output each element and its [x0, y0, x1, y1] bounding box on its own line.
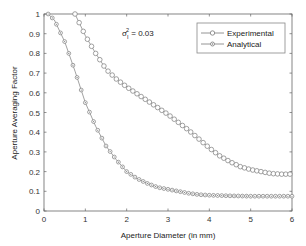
data-point-dot	[258, 196, 259, 197]
data-point-dot	[238, 195, 239, 196]
x-tick-label: 0	[42, 215, 47, 224]
chart: 0123456 00.10.20.30.40.50.60.70.80.91 Ap…	[0, 0, 306, 246]
data-point-dot	[138, 179, 139, 180]
data-point-dot	[254, 196, 255, 197]
x-tick-label: 2	[124, 215, 129, 224]
data-point	[160, 108, 165, 113]
y-axis-label: Aperture Averaging Factor	[10, 66, 19, 160]
data-point-dot	[155, 186, 156, 187]
y-tick-label: 0	[36, 207, 41, 216]
y-tick-label: 1	[36, 10, 41, 19]
data-point	[176, 120, 181, 125]
x-axis-label: Aperture Diameter (in mm)	[121, 231, 216, 240]
data-point-dot	[122, 166, 123, 167]
data-point	[155, 105, 160, 110]
data-point	[139, 94, 144, 99]
data-point	[102, 64, 107, 69]
data-point-dot	[48, 13, 49, 14]
data-point	[209, 147, 214, 152]
data-point-dot	[147, 183, 148, 184]
data-point-dot	[97, 130, 98, 131]
y-tick-label: 0.7	[29, 69, 41, 78]
data-point-dot	[72, 65, 73, 66]
data-point-dot	[229, 195, 230, 196]
data-point	[197, 137, 202, 142]
data-point-dot	[64, 41, 65, 42]
y-tick-label: 0.5	[29, 109, 41, 118]
data-point-dot	[118, 162, 119, 163]
legend-label-analytical: Analytical	[227, 40, 261, 49]
data-point-dot	[213, 195, 214, 196]
data-point-dot	[134, 177, 135, 178]
data-point	[172, 117, 177, 122]
data-point	[85, 37, 90, 42]
data-point-dot	[159, 187, 160, 188]
data-point	[184, 126, 189, 131]
data-point	[93, 51, 98, 56]
data-point	[193, 133, 198, 138]
data-point-dot	[200, 194, 201, 195]
data-point-dot	[163, 188, 164, 189]
data-point	[118, 80, 123, 85]
data-point-dot	[271, 196, 272, 197]
y-tick-label: 0.4	[29, 128, 41, 137]
data-point-dot	[76, 77, 77, 78]
data-point	[106, 69, 111, 74]
data-point	[110, 73, 115, 78]
data-point-dot	[246, 196, 247, 197]
y-tick-label: 0.6	[29, 89, 41, 98]
data-point-dot	[196, 194, 197, 195]
data-point-dot	[68, 53, 69, 54]
data-point-dot	[217, 195, 218, 196]
data-point-dot	[110, 151, 111, 152]
data-point-dot	[242, 195, 243, 196]
x-tick-label: 3	[166, 215, 171, 224]
data-point-dot	[60, 32, 61, 33]
data-point-dot	[101, 138, 102, 139]
data-point-dot	[130, 174, 131, 175]
x-tick-label: 4	[207, 215, 212, 224]
data-point-dot	[234, 195, 235, 196]
data-point-dot	[56, 24, 57, 25]
data-point-dot	[192, 193, 193, 194]
y-tick-label: 0.1	[29, 187, 41, 196]
data-point	[168, 114, 173, 119]
data-point-dot	[287, 196, 288, 197]
open-circle-marker-icon	[210, 31, 214, 35]
data-point-dot	[262, 196, 263, 197]
data-point	[164, 111, 169, 116]
data-point-dot	[184, 192, 185, 193]
data-point	[201, 140, 206, 145]
data-point-dot	[267, 196, 268, 197]
marker-dot	[212, 43, 213, 44]
data-point	[188, 130, 193, 135]
x-tick-label: 5	[248, 215, 253, 224]
x-tick-label: 1	[83, 215, 88, 224]
data-point	[89, 44, 94, 49]
data-point	[213, 150, 218, 155]
data-point-dot	[176, 190, 177, 191]
legend-label-experimental: Experimental	[227, 29, 274, 38]
y-tick-label: 0.9	[29, 30, 41, 39]
data-point-dot	[93, 121, 94, 122]
legend: Experimental Analytical	[197, 23, 285, 53]
data-point-dot	[188, 193, 189, 194]
data-point	[122, 83, 127, 88]
data-point-dot	[291, 196, 292, 197]
data-point	[205, 144, 210, 149]
data-point-dot	[105, 145, 106, 146]
y-tick-label: 0.8	[29, 49, 41, 58]
data-point-dot	[279, 196, 280, 197]
data-point-dot	[205, 194, 206, 195]
data-point	[131, 89, 136, 94]
data-point	[180, 123, 185, 128]
data-point	[81, 29, 86, 34]
data-point-dot	[167, 189, 168, 190]
data-point-dot	[126, 171, 127, 172]
data-point-dot	[52, 17, 53, 18]
data-point-dot	[250, 196, 251, 197]
data-point	[147, 100, 152, 105]
data-point	[288, 172, 293, 177]
data-point	[135, 91, 140, 96]
data-point	[98, 57, 103, 62]
